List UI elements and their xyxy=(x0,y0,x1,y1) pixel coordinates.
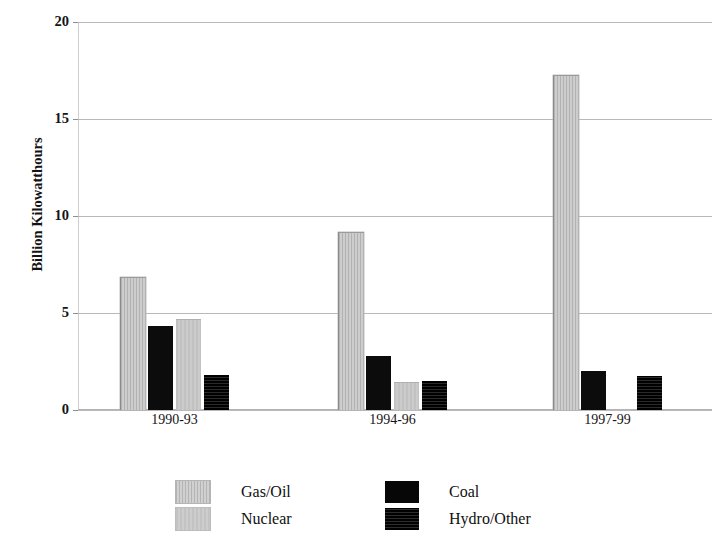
legend-item-gasoil[interactable]: Gas/Oil xyxy=(175,480,385,504)
y-tick-label-0: 0 xyxy=(62,401,69,418)
legend-item-hydro[interactable]: Hydro/Other xyxy=(385,508,595,530)
bar-gasoil-1994-96 xyxy=(338,232,364,411)
gridline-5 xyxy=(78,313,712,314)
bar-nuclear-1990-93 xyxy=(176,319,201,410)
y-tickmark-10 xyxy=(73,216,78,217)
y-tick-label-5: 5 xyxy=(62,304,69,321)
bar-hydro-1990-93 xyxy=(204,375,229,410)
y-tick-label-10: 10 xyxy=(55,207,70,224)
legend-swatch-coal-icon xyxy=(385,481,419,503)
bar-coal-1990-93 xyxy=(148,326,173,410)
gridline-10 xyxy=(78,216,712,217)
bar-coal-1994-96 xyxy=(366,356,391,410)
legend: Gas/OilCoalNuclearHydro/Other xyxy=(175,478,595,532)
x-tick-label-1990-93: 1990-93 xyxy=(151,412,198,428)
x-tick-label-1997-99: 1997-99 xyxy=(584,412,631,428)
bar-gasoil-1990-93 xyxy=(120,277,146,410)
legend-label-coal: Coal xyxy=(449,483,479,501)
gridline-15 xyxy=(78,119,712,120)
y-tickmark-20 xyxy=(73,22,78,23)
legend-swatch-gasoil-icon xyxy=(175,480,211,504)
y-tick-label-15: 15 xyxy=(55,110,70,127)
bar-hydro-1994-96 xyxy=(422,381,447,410)
y-tick-label-20: 20 xyxy=(55,13,70,30)
legend-item-coal[interactable]: Coal xyxy=(385,481,595,503)
x-tick-label-1994-96: 1994-96 xyxy=(369,412,416,428)
legend-label-hydro: Hydro/Other xyxy=(449,510,531,528)
legend-swatch-nuclear-icon xyxy=(175,507,211,531)
legend-item-nuclear[interactable]: Nuclear xyxy=(175,507,385,531)
gridline-0 xyxy=(78,410,712,411)
legend-row: NuclearHydro/Other xyxy=(175,505,595,532)
bar-nuclear-1994-96 xyxy=(394,382,419,410)
plot-area: 05101520 xyxy=(78,22,712,410)
bar-gasoil-1997-99 xyxy=(553,75,579,410)
bar-hydro-1997-99 xyxy=(637,376,662,410)
legend-swatch-hydro-icon xyxy=(385,508,419,530)
y-tickmark-0 xyxy=(73,410,78,411)
bar-chart-figure: Billion Kilowatthours 05101520 1990-9319… xyxy=(0,0,724,547)
y-axis-label: Billion Kilowatthours xyxy=(29,105,46,305)
y-tickmark-5 xyxy=(73,313,78,314)
gridline-20 xyxy=(78,22,712,23)
bar-coal-1997-99 xyxy=(581,371,606,410)
legend-label-nuclear: Nuclear xyxy=(241,510,292,528)
legend-label-gasoil: Gas/Oil xyxy=(241,483,291,501)
legend-row: Gas/OilCoal xyxy=(175,478,595,505)
y-tickmark-15 xyxy=(73,119,78,120)
